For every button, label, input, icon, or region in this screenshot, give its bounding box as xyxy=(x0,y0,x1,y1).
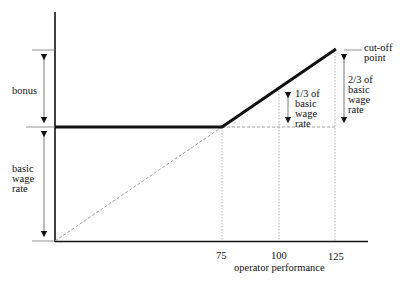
x-tick-75: 75 xyxy=(216,250,227,261)
x-tick-100: 100 xyxy=(271,250,287,261)
x-tick-125: 125 xyxy=(328,251,344,262)
bonus-label: bonus xyxy=(12,85,37,96)
diagram-canvas xyxy=(0,0,403,283)
cut-off-label-line2: point xyxy=(364,52,386,63)
x-axis-label: operator performance xyxy=(234,262,325,273)
two-thirds-label-line4: rate xyxy=(348,104,364,115)
basic-wage-label-line3: rate xyxy=(12,183,28,194)
earnings-line xyxy=(55,49,336,127)
baseline-dashed-ray xyxy=(55,127,222,241)
one-third-label-line4: rate xyxy=(295,118,311,129)
